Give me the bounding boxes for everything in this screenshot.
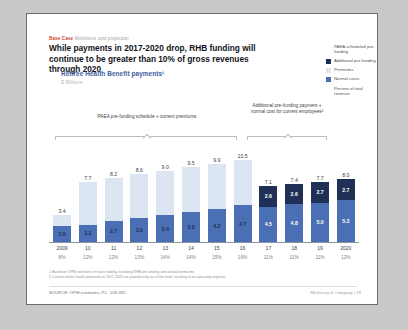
bar-column[interactable]: 5.63.49.0 bbox=[156, 171, 174, 242]
premiums-segment bbox=[182, 167, 200, 212]
bar-column[interactable]: 2.75.38.0 bbox=[337, 179, 355, 242]
bar-column[interactable]: 5.84.710.5 bbox=[234, 160, 252, 243]
segment-value: 2.6 bbox=[265, 193, 272, 199]
additional-prefunding-segment: 2.6 bbox=[285, 184, 303, 204]
legend-item-0: PAEA scheduled pre-funding bbox=[326, 44, 378, 54]
percent-row: 8%12%12%13%14%14%15%16%11%11%11%12% bbox=[49, 255, 359, 264]
bar-column[interactable]: 2.64.57.1 bbox=[259, 186, 277, 242]
stacked-bar: 2.64.8 bbox=[285, 184, 303, 242]
bar-column[interactable]: 5.73.89.5 bbox=[182, 167, 200, 242]
segment-value: 2.7 bbox=[110, 228, 117, 234]
footnote-2: 2 Current retiree health premiums in 201… bbox=[49, 275, 225, 279]
bar-total-label: 7.1 bbox=[259, 179, 277, 185]
x-tick-label: 12 bbox=[130, 245, 148, 251]
kicker-bold: Base Case bbox=[49, 36, 73, 41]
bar-column[interactable]: 5.52.27.7 bbox=[79, 182, 97, 243]
bar-column[interactable]: 2.75.07.7 bbox=[311, 182, 329, 243]
legend-item-1: Additional pre-funding bbox=[326, 58, 378, 64]
stacked-bar: 2.75.3 bbox=[337, 179, 355, 242]
percent-of-revenue-label: 14% bbox=[156, 255, 174, 260]
chart-units: $ Billions bbox=[61, 79, 83, 85]
normal-costs-segment: 5.3 bbox=[337, 200, 355, 242]
premiums-segment bbox=[53, 215, 71, 226]
segment-value: 4.7 bbox=[239, 221, 246, 227]
legend-item-label: Additional pre-funding bbox=[334, 58, 376, 63]
legend-swatch-icon bbox=[326, 59, 331, 64]
x-tick-label: 2009 bbox=[53, 245, 71, 251]
segment-value: 2.2 bbox=[84, 230, 91, 236]
percent-of-revenue-label: 12% bbox=[337, 255, 355, 260]
normal-costs-segment: 2.7 bbox=[105, 221, 123, 242]
legend-item-label: Premiums bbox=[334, 67, 353, 72]
normal-costs-segment: 2.2 bbox=[79, 225, 97, 242]
segment-value: 4.5 bbox=[265, 221, 272, 227]
segment-value: 3.0 bbox=[136, 227, 143, 233]
chart-area: PAEA pre-funding schedule + current prem… bbox=[49, 114, 359, 264]
stacked-bar: 4.2 bbox=[208, 164, 226, 242]
x-tick-label: 18 bbox=[285, 245, 303, 251]
segment-value: 2.7 bbox=[316, 189, 323, 195]
normal-costs-segment: 4.2 bbox=[208, 209, 226, 242]
footer-brand: McKinsey & Company | 19 bbox=[310, 290, 361, 295]
slide: Base Case Workforce cost projection Whil… bbox=[26, 13, 378, 305]
bar-column[interactable]: 1.42.03.4 bbox=[53, 215, 71, 242]
legend-item-label: Normal costs bbox=[334, 76, 359, 81]
bar-total-label: 8.6 bbox=[130, 167, 148, 173]
stacked-bar: 2.2 bbox=[79, 182, 97, 243]
percent-of-revenue-label: 11% bbox=[259, 255, 277, 260]
additional-prefunding-segment: 2.6 bbox=[259, 186, 277, 206]
bar-total-label: 8.2 bbox=[105, 171, 123, 177]
bar-total-label: 7.7 bbox=[311, 175, 329, 181]
legend-swatch-icon bbox=[326, 68, 331, 73]
bar-total-label: 3.4 bbox=[53, 208, 71, 214]
segment-value: 3.4 bbox=[162, 226, 169, 232]
legend-item-2: Premiums bbox=[326, 67, 378, 73]
legend-item-label: PAEA scheduled pre-funding bbox=[334, 44, 378, 54]
stacked-bar: 2.64.5 bbox=[259, 186, 277, 242]
bar-total-label: 7.4 bbox=[285, 177, 303, 183]
normal-costs-segment: 5.0 bbox=[311, 203, 329, 242]
x-tick-label: 16 bbox=[234, 245, 252, 251]
segment-value: 4.2 bbox=[213, 223, 220, 229]
stacked-bar: 3.8 bbox=[182, 167, 200, 242]
legend-item-4: Percent of total revenue bbox=[326, 86, 378, 96]
percent-of-revenue-label: 12% bbox=[105, 255, 123, 260]
segment-value: 2.6 bbox=[291, 191, 298, 197]
bracket-left bbox=[55, 136, 237, 140]
segment-value: 2.0 bbox=[58, 231, 65, 237]
bracket-right bbox=[247, 136, 327, 140]
percent-of-revenue-label: 12% bbox=[79, 255, 97, 260]
x-tick-label: 19 bbox=[311, 245, 329, 251]
additional-prefunding-segment: 2.7 bbox=[337, 179, 355, 200]
premiums-segment bbox=[156, 171, 174, 215]
chart-legend: PAEA scheduled pre-fundingAdditional pre… bbox=[326, 44, 378, 100]
x-tick-label: 11 bbox=[105, 245, 123, 251]
x-tick-label: 13 bbox=[156, 245, 174, 251]
chart-title: Retiree Health Benefit payments¹ bbox=[61, 70, 164, 77]
segment-value: 5.0 bbox=[316, 219, 323, 225]
stacked-bar: 2.7 bbox=[105, 178, 123, 242]
segment-value: 4.8 bbox=[291, 220, 298, 226]
stacked-bar: 3.4 bbox=[156, 171, 174, 242]
bar-total-label: 10.5 bbox=[234, 153, 252, 159]
normal-costs-segment: 2.0 bbox=[53, 226, 71, 242]
percent-of-revenue-label: 16% bbox=[234, 255, 252, 260]
bar-total-label: 9.9 bbox=[208, 157, 226, 163]
stacked-bar: 2.75.0 bbox=[311, 182, 329, 243]
x-tick-label: 14 bbox=[182, 245, 200, 251]
bar-total-label: 7.7 bbox=[79, 175, 97, 181]
normal-costs-segment: 4.8 bbox=[285, 204, 303, 242]
premiums-segment bbox=[208, 164, 226, 209]
legend-item-3: Normal costs bbox=[326, 76, 378, 82]
footer-divider bbox=[49, 286, 357, 287]
bar-column[interactable]: 5.63.08.6 bbox=[130, 174, 148, 242]
bar-column[interactable]: 5.74.29.9 bbox=[208, 164, 226, 242]
premiums-segment bbox=[105, 178, 123, 221]
legend-item-label: Percent of total revenue bbox=[334, 86, 378, 96]
percent-of-revenue-label: 13% bbox=[130, 255, 148, 260]
segment-value: 2.7 bbox=[342, 187, 349, 193]
bar-column[interactable]: 5.52.78.2 bbox=[105, 178, 123, 242]
segment-value: 3.8 bbox=[187, 224, 194, 230]
bar-column[interactable]: 2.64.87.4 bbox=[285, 184, 303, 242]
bracket-label-left: PAEA pre-funding schedule + current prem… bbox=[49, 114, 245, 120]
